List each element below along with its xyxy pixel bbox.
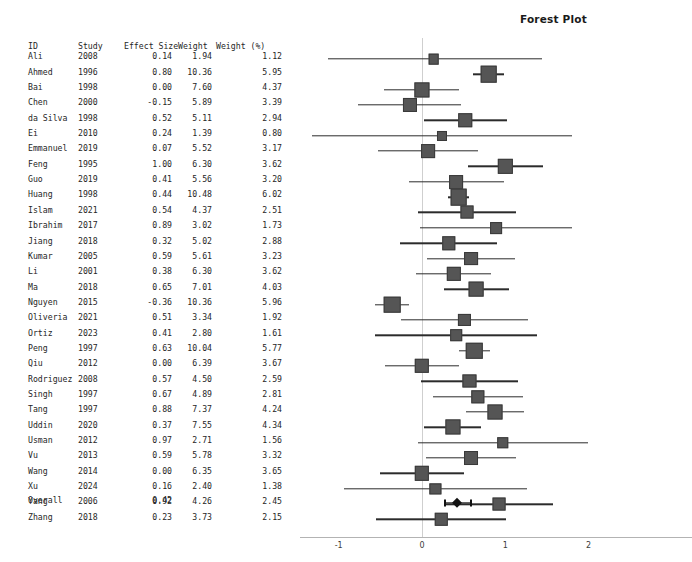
cell-weight: 5.52 (178, 143, 212, 153)
cell-weight: 1.94 (178, 51, 212, 61)
effect-size-marker (442, 236, 455, 249)
cell-study: 2013 (78, 450, 124, 460)
cell-effect: 0.00 (124, 358, 172, 368)
cell-weight: 3.34 (178, 312, 212, 322)
cell-weight_pct: 1.92 (216, 312, 282, 322)
cell-weight: 5.89 (178, 97, 212, 107)
cell-weight_pct: 3.39 (216, 97, 282, 107)
table-row: Usman20120.972.711.56 (0, 435, 300, 450)
cell-effect: 0.24 (124, 128, 172, 138)
column-header-weight: Weight (178, 41, 212, 51)
cell-effect: 0.67 (124, 389, 172, 399)
effect-size-marker (480, 66, 497, 83)
x-tick-label: 1 (503, 541, 508, 550)
effect-size-marker (428, 54, 439, 65)
effect-size-marker (437, 131, 447, 141)
table-row: Oliveria20210.513.341.92 (0, 312, 300, 327)
effect-size-marker (458, 314, 470, 326)
cell-effect: 0.00 (124, 82, 172, 92)
table-row-overall: Overall0.42 (0, 495, 300, 510)
table-row: Rodriguez20080.574.502.59 (0, 374, 300, 389)
cell-effect: 0.88 (124, 404, 172, 414)
page-title: Forest Plot (520, 13, 587, 25)
cell-weight_pct: 3.23 (216, 251, 282, 261)
cell-study: 1998 (78, 189, 124, 199)
cell-study: 1997 (78, 389, 124, 399)
cell-id: Li (28, 266, 38, 276)
cell-id: Ei (28, 128, 38, 138)
cell-id: Ibrahim (28, 220, 63, 230)
forest-row (300, 297, 692, 312)
column-header-weight_pct: Weight (%) (216, 41, 282, 51)
overall-ci-cap-left (444, 500, 445, 507)
effect-size-marker (384, 296, 401, 313)
cell-effect: 1.00 (124, 159, 172, 169)
cell-effect: 0.14 (124, 51, 172, 61)
cell-weight_pct: 2.51 (216, 205, 282, 215)
forest-row (300, 312, 692, 327)
x-tick-label: 2 (586, 541, 591, 550)
cell-effect: 0.80 (124, 67, 172, 77)
forest-row (300, 189, 692, 204)
cell-weight_pct: 6.02 (216, 189, 282, 199)
cell-weight: 7.37 (178, 404, 212, 414)
cell-weight_pct: 2.94 (216, 113, 282, 123)
forest-row (300, 374, 692, 389)
effect-size-marker (414, 82, 429, 97)
forest-row (300, 282, 692, 297)
cell-weight: 5.61 (178, 251, 212, 261)
table-row: Uddin20200.377.554.34 (0, 420, 300, 435)
cell-weight_pct: 1.38 (216, 481, 282, 491)
cell-weight_pct: 5.96 (216, 297, 282, 307)
effect-size-marker (490, 222, 502, 234)
cell-study: 2018 (78, 282, 124, 292)
table-row: Wang20140.006.353.65 (0, 466, 300, 481)
table-row: Qiu20120.006.393.67 (0, 358, 300, 373)
cell-study: 2001 (78, 266, 124, 276)
table-row: Tang19970.887.374.24 (0, 404, 300, 419)
forest-row (300, 174, 692, 189)
cell-weight: 7.01 (178, 282, 212, 292)
cell-id: Uddin (28, 420, 53, 430)
cell-id: Ahmed (28, 67, 53, 77)
forest-row (300, 97, 692, 112)
cell-weight_pct: 1.56 (216, 435, 282, 445)
cell-weight: 10.48 (178, 189, 212, 199)
forest-row (300, 128, 692, 143)
study-table: IDStudyEffect SizeWeightWeight (%)Ali200… (0, 0, 300, 562)
cell-study: 2021 (78, 205, 124, 215)
cell-study: 2008 (78, 374, 124, 384)
x-axis (300, 537, 692, 538)
cell-id: Usman (28, 435, 53, 445)
table-row: Ahmed19960.8010.365.95 (0, 67, 300, 82)
effect-size-marker (459, 114, 473, 128)
cell-weight: 2.80 (178, 328, 212, 338)
cell-id: Zhang (28, 512, 53, 522)
cell-study: 2020 (78, 420, 124, 430)
table-row: Ali20080.141.941.12 (0, 51, 300, 66)
x-tick-label: 0 (419, 541, 424, 550)
cell-weight: 2.40 (178, 481, 212, 491)
cell-id: Islam (28, 205, 53, 215)
cell-effect: 0.44 (124, 189, 172, 199)
cell-weight_pct: 1.61 (216, 328, 282, 338)
cell-effect: 0.23 (124, 512, 172, 522)
forest-row (300, 205, 692, 220)
effect-size-marker (469, 282, 484, 297)
forest-row (300, 328, 692, 343)
cell-study: 2019 (78, 143, 124, 153)
forest-row (300, 220, 692, 235)
effect-size-marker (460, 206, 473, 219)
cell-id: Feng (28, 159, 48, 169)
cell-id: Wang (28, 466, 48, 476)
cell-weight_pct: 5.77 (216, 343, 282, 353)
table-row: Bai19980.007.604.37 (0, 82, 300, 97)
cell-effect: 0.59 (124, 251, 172, 261)
cell-effect: -0.36 (124, 297, 172, 307)
forest-row (300, 266, 692, 281)
forest-row (300, 358, 692, 373)
table-row: Jiang20180.325.022.88 (0, 236, 300, 251)
effect-size-marker (466, 342, 482, 358)
forest-row (300, 251, 692, 266)
forest-row (300, 236, 692, 251)
